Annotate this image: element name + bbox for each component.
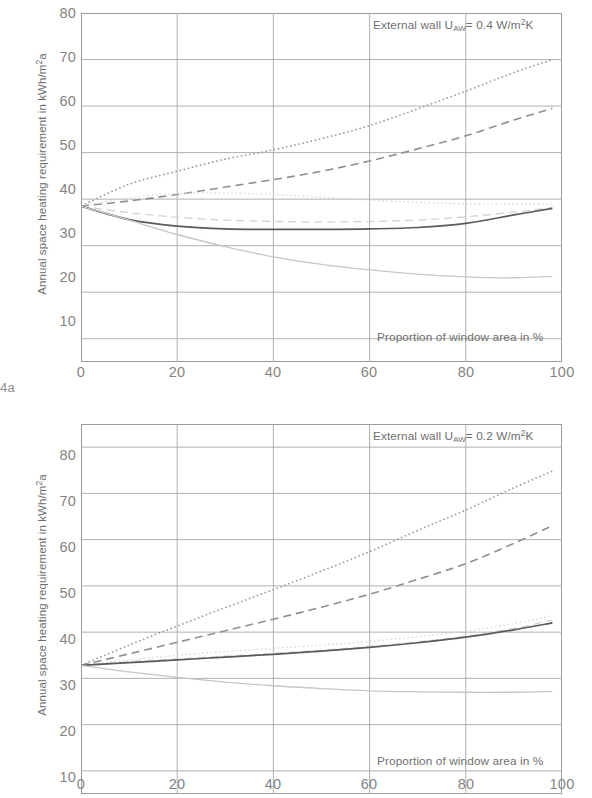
- chart-panel-b: Annual space heating requirement in kWh/…: [0, 399, 592, 798]
- y-tick: 30: [42, 225, 76, 241]
- annotation-external-wall-b: External wall UAW= 0.2 W/m2K: [373, 429, 534, 443]
- x-axis-label-b: Proportion of window area in %: [377, 754, 543, 768]
- y-tick: 40: [42, 181, 76, 197]
- x-axis-ticks-b: 0 20 40 60 80 100: [0, 776, 592, 798]
- plot-area-a: [81, 13, 562, 362]
- y-tick: 50: [42, 137, 76, 153]
- y-tick: 70: [42, 49, 76, 65]
- x-axis-ticks-a: 0 20 40 60 80 100: [0, 364, 592, 386]
- x-tick: 20: [169, 364, 186, 380]
- x-tick: 40: [265, 776, 282, 792]
- x-tick: 0: [77, 776, 85, 792]
- plot-svg-a: [81, 13, 562, 362]
- plot-frame: [82, 14, 562, 362]
- x-tick: 20: [169, 776, 186, 792]
- plot-svg-b: [81, 424, 562, 794]
- plot-area-b: [81, 424, 562, 794]
- x-tick: 80: [458, 776, 475, 792]
- x-axis-label-a: Proportion of window area in %: [377, 330, 543, 344]
- y-axis-ticks-a: 80 70 60 50 40 30 20 10: [36, 0, 76, 399]
- x-tick: 100: [550, 776, 575, 792]
- y-tick: 70: [42, 493, 76, 509]
- y-tick: 60: [42, 539, 76, 555]
- x-tick: 0: [77, 364, 85, 380]
- x-tick: 60: [361, 364, 378, 380]
- y-tick: 20: [42, 723, 76, 739]
- x-tick: 80: [458, 364, 475, 380]
- chart-panel-a: Annual space heating requirement in kWh/…: [0, 0, 592, 399]
- y-tick: 60: [42, 93, 76, 109]
- y-tick: 30: [42, 677, 76, 693]
- x-tick: 100: [550, 364, 575, 380]
- x-tick: 60: [361, 776, 378, 792]
- plot-frame: [82, 425, 562, 794]
- y-tick: 20: [42, 269, 76, 285]
- y-tick: 80: [42, 5, 76, 21]
- annotation-external-wall-a: External wall UAW= 0.4 W/m2K: [373, 18, 534, 32]
- figure-label: 4a: [0, 380, 15, 395]
- y-tick: 40: [42, 631, 76, 647]
- y-axis-ticks-b: 80 70 60 50 40 30 20 10: [36, 399, 76, 798]
- y-tick: 80: [42, 447, 76, 463]
- y-tick: 10: [42, 313, 76, 329]
- x-tick: 40: [265, 364, 282, 380]
- y-tick: 50: [42, 585, 76, 601]
